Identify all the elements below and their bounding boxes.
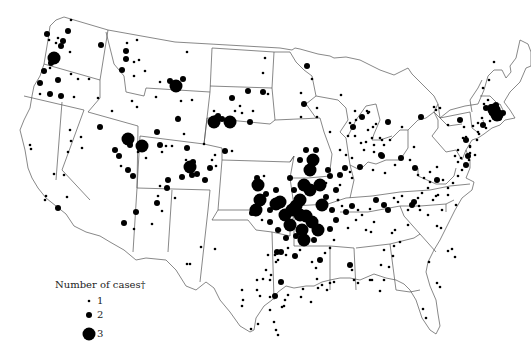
case-dot	[460, 157, 463, 160]
case-dot	[353, 279, 356, 282]
legend-dot-large-icon	[83, 328, 96, 341]
case-dot	[354, 110, 357, 113]
case-dot	[469, 146, 472, 149]
case-dot	[224, 116, 237, 129]
case-dot	[81, 147, 84, 150]
case-dot	[349, 171, 352, 174]
case-dot	[302, 288, 305, 291]
case-dot	[287, 175, 293, 181]
case-dot	[412, 165, 418, 171]
case-dot	[180, 100, 183, 103]
case-dot	[184, 161, 197, 174]
case-dot	[367, 129, 370, 132]
case-dot	[447, 124, 450, 127]
case-dot	[351, 157, 354, 160]
case-dot	[316, 278, 319, 281]
case-dot	[189, 172, 195, 178]
case-dot	[383, 249, 386, 252]
case-dot	[428, 261, 431, 264]
case-dot	[496, 115, 502, 121]
case-dot	[373, 197, 379, 203]
case-dot	[48, 39, 51, 42]
case-dot	[250, 328, 253, 331]
case-dot	[493, 102, 499, 108]
case-dot	[388, 266, 391, 269]
case-dot	[45, 195, 48, 198]
case-dot	[127, 142, 133, 148]
case-dot	[333, 187, 339, 193]
case-dot	[287, 247, 290, 250]
case-dot	[378, 152, 384, 158]
case-dot	[165, 145, 168, 148]
case-dot	[340, 94, 343, 97]
case-dot	[293, 233, 299, 239]
case-dot	[66, 196, 69, 199]
case-dot	[477, 122, 480, 125]
case-dot	[329, 282, 332, 285]
case-dot	[442, 179, 445, 182]
case-dot	[274, 254, 277, 257]
case-dot	[283, 235, 289, 241]
case-dot	[394, 164, 397, 167]
case-dot	[393, 197, 396, 200]
case-dot	[267, 219, 273, 225]
case-dot	[277, 259, 280, 262]
case-dot	[359, 114, 365, 120]
case-dot	[333, 239, 336, 242]
case-dot	[476, 139, 479, 142]
case-dot	[365, 229, 368, 232]
case-dot	[349, 122, 352, 125]
case-dot	[379, 290, 382, 293]
case-dot	[194, 171, 200, 177]
case-dot	[269, 296, 272, 299]
case-dot	[30, 148, 33, 151]
case-dot	[283, 305, 286, 308]
case-dot	[381, 202, 387, 208]
case-dot	[472, 125, 475, 128]
case-dot	[261, 219, 264, 222]
case-dot	[351, 269, 354, 272]
case-dot	[275, 329, 278, 332]
case-dot	[349, 203, 355, 209]
case-dot	[422, 308, 425, 311]
case-dot	[120, 165, 123, 168]
case-dot	[447, 187, 450, 190]
case-dot	[311, 261, 314, 264]
case-dot	[269, 279, 272, 282]
case-dot	[88, 78, 91, 81]
case-dot	[372, 126, 375, 129]
case-dot	[299, 249, 302, 252]
case-dot	[370, 231, 373, 234]
case-dot	[373, 221, 376, 224]
case-dot	[439, 107, 442, 110]
case-dot	[427, 214, 430, 217]
case-dot	[316, 199, 329, 212]
case-dot	[381, 139, 384, 142]
case-dot	[333, 217, 339, 223]
legend-symbols	[75, 295, 115, 347]
case-dot	[341, 205, 344, 208]
case-dot	[202, 177, 208, 183]
case-dot	[254, 175, 260, 181]
case-dot	[383, 144, 386, 147]
legend-label-2: 2	[97, 309, 103, 320]
case-dot	[427, 187, 430, 190]
case-dot	[70, 140, 73, 143]
case-dot	[457, 149, 460, 152]
case-dot	[398, 155, 404, 161]
case-dot	[434, 177, 440, 183]
case-dot	[231, 150, 234, 153]
case-dot	[272, 293, 278, 299]
case-dot	[300, 116, 303, 119]
case-dot	[343, 209, 349, 215]
case-dot	[215, 165, 218, 168]
case-dot	[317, 287, 320, 290]
case-dot	[116, 153, 122, 159]
case-dot	[184, 145, 190, 151]
case-dot	[292, 253, 298, 259]
case-dot	[214, 248, 217, 251]
case-dot	[421, 192, 424, 195]
case-dot	[37, 80, 43, 86]
case-dot	[97, 124, 103, 130]
case-dot	[273, 321, 276, 324]
